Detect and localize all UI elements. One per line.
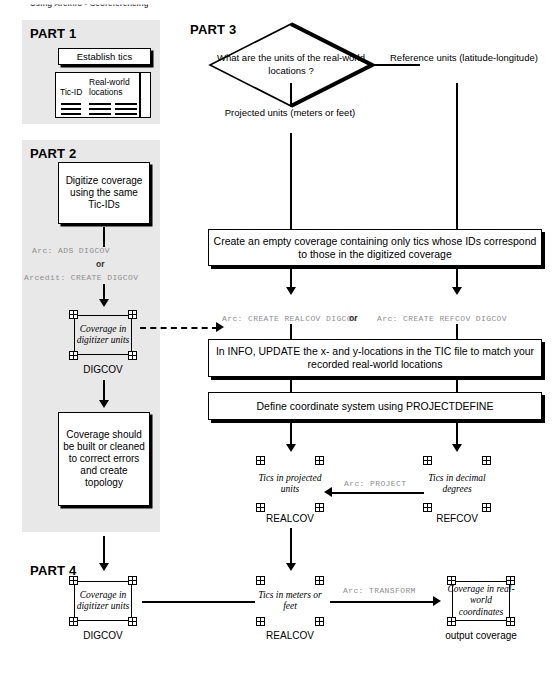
info-update-box: In INFO, UPDATE the x- and y-locations i…: [208, 339, 542, 377]
or-label-part2: or: [96, 259, 105, 269]
digcov-name-part2: DIGCOV: [69, 364, 137, 375]
realcov-caption-part4: Tics in meters or feet: [256, 576, 324, 626]
page-header-strip: Using ArcInfo • Georeferencing: [0, 0, 554, 12]
arrow-left-project: [324, 487, 332, 497]
cmd-create-realcov: Arc: CREATE REALCOV DIGCOV: [222, 314, 357, 323]
arrow-down-refcov-cmd: [452, 287, 462, 295]
refcov-tics-sprite: Tics in decimal degrees: [423, 456, 491, 512]
info-update-label: In INFO, UPDATE the x- and y-locations i…: [209, 345, 541, 371]
output-coverage-sprite: Coverage in real-world coordinates: [447, 576, 515, 626]
arrow-right-dashed: [216, 322, 224, 332]
establish-tics-label: Establish tics: [73, 51, 136, 63]
arrow-down-realcov-cmd: [286, 287, 296, 295]
table-right-rule: [139, 73, 141, 117]
realcov-name-part4: REALCOV: [256, 630, 324, 641]
table-bar: [61, 103, 81, 105]
establish-tics-box: Establish tics: [58, 48, 151, 65]
connector-digitize-to-cmd: [103, 227, 105, 247]
realcov-tics-sprite-part4: Tics in meters or feet: [256, 576, 324, 626]
digcov-coverage-sprite-part2: Coverage in digitizer units: [69, 310, 137, 360]
arrow-down-to-refcov-tics: [452, 444, 462, 452]
arrow-down-to-part4-realcov: [286, 563, 296, 571]
connector-update-to-define-left: [290, 380, 292, 392]
cmd-create-refcov: Arc: CREATE REFCOV DIGCOV: [377, 314, 507, 323]
arrow-down-to-part4-digcov: [99, 563, 109, 571]
realcov-caption: Tics in projected units: [256, 456, 324, 512]
realcov-name-part3: REALCOV: [256, 513, 324, 524]
table-bar: [115, 103, 137, 105]
arrow-down-to-realcov-tics: [286, 444, 296, 452]
connector-create-to-refcov-cmd: [456, 269, 458, 289]
table-col1-header: Tic-ID: [60, 88, 86, 98]
table-bar: [61, 113, 81, 115]
clean-coverage-box: Coverage should be built or cleaned to c…: [58, 412, 150, 506]
connector-diamond-bottom: [290, 83, 292, 107]
arrow-down-to-digcov: [99, 299, 109, 307]
dashed-connector-digcov-to-create: [140, 327, 218, 329]
digcov-coverage-sprite-part4: Coverage in digitizer units: [69, 576, 137, 626]
digitize-coverage-box: Digitize coverage using the same Tic-IDs: [58, 162, 150, 224]
connector-projected-units-down: [290, 133, 292, 229]
create-empty-coverage-box: Create an empty coverage containing only…: [208, 229, 542, 266]
cmd-transform: Arc: TRANSFORM: [343, 586, 416, 595]
table-bar: [115, 108, 137, 110]
cmd-arcedit-create-digcov: Arcedit: CREATE DIGCOV: [24, 273, 138, 282]
connector-update-to-define-right: [456, 380, 458, 392]
flowchart-diagram: Using ArcInfo • Georeferencing PART 1 Es…: [0, 0, 554, 673]
table-bar: [115, 113, 137, 115]
part1-title: PART 1: [30, 26, 76, 41]
connector-realcov-cmd-to-update: [290, 324, 292, 339]
table-bar: [89, 108, 111, 110]
cmd-ads-digcov: Arc: ADS DIGCOV: [32, 246, 110, 255]
page-header-text: Using ArcInfo • Georeferencing: [30, 0, 149, 8]
table-bar: [61, 108, 81, 110]
clean-coverage-label: Coverage should be built or cleaned to c…: [59, 429, 149, 490]
output-coverage-name: output coverage: [440, 630, 522, 641]
projectdefine-box: Define coordinate system using PROJECTDE…: [208, 392, 542, 420]
arrow-down-to-clean-box: [99, 400, 109, 408]
digcov-name-part4: DIGCOV: [69, 630, 137, 641]
connector-realcov-to-part4: [290, 528, 292, 568]
connector-create-to-realcov-cmd: [290, 269, 292, 289]
cmd-project: Arc: PROJECT: [344, 479, 406, 488]
output-coverage-caption: Coverage in real-world coordinates: [447, 576, 515, 626]
connector-project-arrow-line: [332, 492, 424, 494]
coverage-caption: Coverage in digitizer units: [69, 576, 137, 626]
projectdefine-label: Define coordinate system using PROJECTDE…: [253, 400, 498, 413]
realcov-tics-sprite: Tics in projected units: [256, 456, 324, 512]
or-label-part3: or: [349, 313, 358, 323]
table-bar: [89, 113, 111, 115]
coverage-caption: Coverage in digitizer units: [69, 310, 137, 360]
table-col2-header: Real-world locations: [89, 78, 136, 97]
connector-refcov-cmd-to-update: [456, 324, 458, 339]
part2-title: PART 2: [30, 146, 76, 161]
branch-left-label: Projected units (meters or feet): [224, 107, 356, 119]
table-bar: [89, 103, 111, 105]
create-empty-coverage-label: Create an empty coverage containing only…: [209, 235, 541, 261]
digitize-coverage-label: Digitize coverage using the same Tic-IDs: [59, 175, 149, 212]
connector-digcov-to-realcov-part4: [142, 601, 255, 603]
connector-transform-line: [330, 601, 435, 603]
tic-id-table: Tic-ID Real-world locations: [55, 72, 151, 118]
refcov-name-part3: REFCOV: [423, 513, 491, 524]
branch-right-label: Reference units (latitude-longitude): [390, 52, 525, 64]
refcov-caption: Tics in decimal degrees: [423, 456, 491, 512]
connector-reference-units-down: [456, 83, 458, 229]
arrow-right-transform: [433, 596, 441, 606]
